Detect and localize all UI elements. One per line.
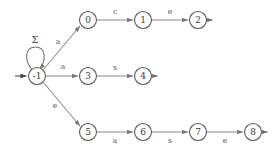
edge-3-to-4: s bbox=[97, 63, 133, 76]
edge-5-to-6: a bbox=[97, 132, 133, 145]
edge-label-start-3: a bbox=[61, 62, 66, 71]
node-7[interactable]: 7 bbox=[190, 124, 207, 141]
edge-label-6-7: s bbox=[168, 136, 172, 145]
node-3[interactable]: 3 bbox=[80, 68, 97, 85]
edge-label-5-6: a bbox=[113, 136, 118, 145]
node-label-0: 0 bbox=[85, 15, 91, 25]
edge-start-to-3: a bbox=[46, 62, 78, 76]
edge-label-start-5: e bbox=[53, 101, 58, 110]
node-label-7: 7 bbox=[195, 127, 201, 137]
node-label-3: 3 bbox=[85, 71, 91, 81]
edge-7-to-8: e bbox=[207, 132, 243, 145]
edge-start-to-5: e bbox=[44, 83, 81, 127]
node-8[interactable]: 8 bbox=[245, 124, 262, 141]
automaton-diagram: Σ a a e c e s bbox=[0, 0, 276, 147]
edge-label-1-2: e bbox=[168, 7, 173, 16]
automaton-svg: Σ a a e c e s bbox=[0, 0, 276, 147]
node-6[interactable]: 6 bbox=[135, 124, 152, 141]
node-label-1: 1 bbox=[140, 15, 146, 25]
edge-label-3-4: s bbox=[113, 63, 117, 72]
node-5[interactable]: 5 bbox=[80, 124, 97, 141]
edge-1-to-2: e bbox=[152, 7, 188, 20]
node-label-8: 8 bbox=[250, 127, 256, 137]
self-loop-path bbox=[27, 47, 45, 70]
edge-label-0-1: c bbox=[113, 7, 117, 16]
edge-self-loop-start: Σ bbox=[27, 34, 45, 70]
node-label-start: -1 bbox=[33, 71, 42, 81]
node-label-2: 2 bbox=[195, 15, 201, 25]
node-label-5: 5 bbox=[85, 127, 91, 137]
edge-label-7-8: e bbox=[223, 136, 228, 145]
edge-line-start-5 bbox=[44, 83, 81, 127]
node-label-6: 6 bbox=[140, 127, 146, 137]
edge-label-start-0: a bbox=[56, 37, 61, 46]
node-0[interactable]: 0 bbox=[80, 12, 97, 29]
node-label-4: 4 bbox=[140, 71, 146, 81]
node-4[interactable]: 4 bbox=[135, 68, 152, 85]
node-1[interactable]: 1 bbox=[135, 12, 152, 29]
node-2[interactable]: 2 bbox=[190, 12, 207, 29]
node-start[interactable]: -1 bbox=[29, 68, 46, 85]
edge-6-to-7: s bbox=[152, 132, 188, 145]
edge-0-to-1: c bbox=[97, 7, 133, 20]
edge-label-sigma: Σ bbox=[31, 34, 38, 45]
